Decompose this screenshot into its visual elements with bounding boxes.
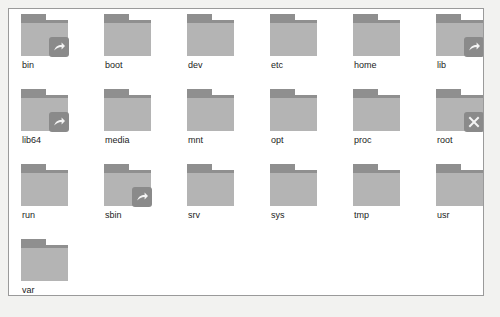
folder-tab-notch xyxy=(285,89,295,97)
folder-icon[interactable] xyxy=(104,89,151,131)
folder-icon[interactable] xyxy=(353,14,400,56)
folder-tab-notch xyxy=(119,164,129,172)
folder-body xyxy=(187,98,234,131)
folder-body xyxy=(21,248,68,281)
folder-body xyxy=(270,98,317,131)
folder-icon[interactable] xyxy=(104,164,151,206)
file-item[interactable]: home xyxy=(352,14,430,84)
folder-body xyxy=(353,23,400,56)
folder-tab-notch xyxy=(368,14,378,22)
folder-icon[interactable] xyxy=(270,14,317,56)
file-item-label: root xyxy=(435,135,484,146)
file-item[interactable]: srv xyxy=(186,164,264,234)
symlink-arrow-icon xyxy=(132,187,152,207)
file-item[interactable]: lib64 xyxy=(20,89,98,159)
folder-tab-notch xyxy=(36,14,46,22)
symlink-arrow-icon xyxy=(49,112,69,132)
folder-body xyxy=(270,23,317,56)
folder-tab-notch xyxy=(36,239,46,247)
file-item-label: sbin xyxy=(103,210,181,221)
file-item-label: boot xyxy=(103,60,181,71)
file-item[interactable]: run xyxy=(20,164,98,234)
file-item[interactable]: var xyxy=(20,239,98,296)
folder-tab-notch xyxy=(368,164,378,172)
folder-tab-notch xyxy=(451,14,461,22)
folder-body xyxy=(353,98,400,131)
folder-tab-notch xyxy=(285,164,295,172)
folder-body xyxy=(270,173,317,206)
folder-tab-notch xyxy=(119,89,129,97)
file-item-label: lib64 xyxy=(20,135,98,146)
folder-icon[interactable] xyxy=(353,164,400,206)
file-item[interactable]: media xyxy=(103,89,181,159)
folder-body xyxy=(436,173,483,206)
file-item[interactable]: mnt xyxy=(186,89,264,159)
file-item-label: var xyxy=(20,285,98,296)
folder-icon[interactable] xyxy=(104,14,151,56)
file-item-label: mnt xyxy=(186,135,264,146)
file-browser-panel: binbootdevetchomeliblib64mediamntoptproc… xyxy=(8,8,484,296)
file-item-label: bin xyxy=(20,60,98,71)
folder-body xyxy=(353,173,400,206)
folder-icon[interactable] xyxy=(436,14,483,56)
file-item[interactable]: bin xyxy=(20,14,98,84)
folder-icon[interactable] xyxy=(21,164,68,206)
file-item-label: sys xyxy=(269,210,347,221)
folder-icon[interactable] xyxy=(187,89,234,131)
folder-tab-notch xyxy=(202,14,212,22)
file-item[interactable]: etc xyxy=(269,14,347,84)
folder-tab-notch xyxy=(368,89,378,97)
folder-tab-notch xyxy=(451,89,461,97)
file-item-label: run xyxy=(20,210,98,221)
folder-tab-notch xyxy=(451,164,461,172)
folder-icon[interactable] xyxy=(270,164,317,206)
folder-icon[interactable] xyxy=(21,89,68,131)
folder-icon[interactable] xyxy=(353,89,400,131)
folder-tab-notch xyxy=(119,14,129,22)
file-item[interactable]: lib xyxy=(435,14,484,84)
folder-body xyxy=(104,98,151,131)
folder-tab-notch xyxy=(202,164,212,172)
folder-icon[interactable] xyxy=(187,14,234,56)
file-item[interactable]: opt xyxy=(269,89,347,159)
file-item[interactable]: boot xyxy=(103,14,181,84)
file-item-label: home xyxy=(352,60,430,71)
folder-icon[interactable] xyxy=(436,89,483,131)
access-denied-x-icon xyxy=(464,112,484,132)
file-item[interactable]: sys xyxy=(269,164,347,234)
file-item-label: dev xyxy=(186,60,264,71)
folder-icon[interactable] xyxy=(270,89,317,131)
folder-body xyxy=(187,23,234,56)
folder-tab-notch xyxy=(202,89,212,97)
symlink-arrow-icon xyxy=(464,37,484,57)
folder-tab-notch xyxy=(36,89,46,97)
folder-icon[interactable] xyxy=(21,14,68,56)
file-item-label: lib xyxy=(435,60,484,71)
file-item-label: opt xyxy=(269,135,347,146)
file-item-label: proc xyxy=(352,135,430,146)
folder-body xyxy=(104,23,151,56)
file-item[interactable]: sbin xyxy=(103,164,181,234)
file-item[interactable]: proc xyxy=(352,89,430,159)
file-item[interactable]: root xyxy=(435,89,484,159)
symlink-arrow-icon xyxy=(49,37,69,57)
file-item-label: media xyxy=(103,135,181,146)
file-item[interactable]: usr xyxy=(435,164,484,234)
folder-tab-notch xyxy=(36,164,46,172)
file-item-label: tmp xyxy=(352,210,430,221)
folder-icon[interactable] xyxy=(21,239,68,281)
folder-icon[interactable] xyxy=(436,164,483,206)
folder-icon[interactable] xyxy=(187,164,234,206)
folder-body xyxy=(21,173,68,206)
file-item-label: etc xyxy=(269,60,347,71)
folder-body xyxy=(187,173,234,206)
file-item[interactable]: tmp xyxy=(352,164,430,234)
file-item-label: usr xyxy=(435,210,484,221)
file-item-label: srv xyxy=(186,210,264,221)
folder-tab-notch xyxy=(285,14,295,22)
file-item[interactable]: dev xyxy=(186,14,264,84)
